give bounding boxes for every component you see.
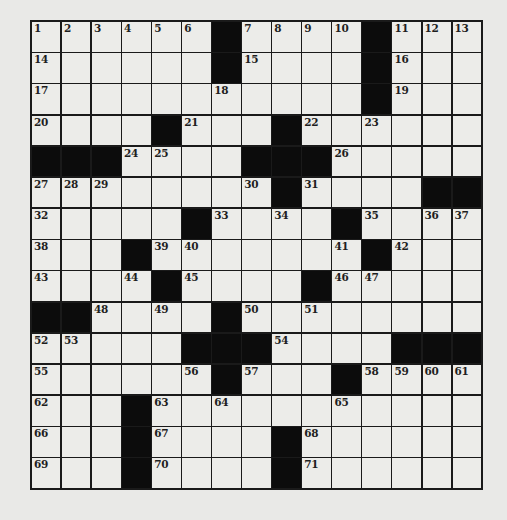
grid-cell[interactable]: 31 [302,178,330,208]
grid-cell[interactable] [212,271,240,301]
grid-cell[interactable]: 52 [32,334,60,364]
grid-cell[interactable]: 28 [62,178,90,208]
grid-cell[interactable]: 1 [32,22,60,52]
grid-cell[interactable]: 2 [62,22,90,52]
grid-cell[interactable] [392,116,420,146]
grid-cell[interactable] [212,147,240,177]
grid-cell[interactable] [332,458,360,488]
grid-cell[interactable]: 21 [182,116,210,146]
grid-cell[interactable] [122,303,150,333]
grid-cell[interactable] [212,240,240,270]
grid-cell[interactable] [423,116,451,146]
grid-cell[interactable] [423,458,451,488]
grid-cell[interactable]: 26 [332,147,360,177]
grid-cell[interactable]: 64 [212,396,240,426]
grid-cell[interactable]: 36 [423,209,451,239]
grid-cell[interactable] [152,84,180,114]
grid-cell[interactable] [92,334,120,364]
grid-cell[interactable] [272,303,300,333]
grid-cell[interactable] [182,53,210,83]
grid-cell[interactable] [122,334,150,364]
grid-cell[interactable] [272,84,300,114]
grid-cell[interactable] [453,116,481,146]
grid-cell[interactable]: 62 [32,396,60,426]
grid-cell[interactable] [362,458,390,488]
grid-cell[interactable] [182,147,210,177]
grid-cell[interactable]: 46 [332,271,360,301]
grid-cell[interactable]: 50 [242,303,270,333]
grid-cell[interactable] [62,396,90,426]
grid-cell[interactable] [332,427,360,457]
grid-cell[interactable]: 17 [32,84,60,114]
grid-cell[interactable] [302,334,330,364]
grid-cell[interactable] [423,396,451,426]
grid-cell[interactable]: 56 [182,365,210,395]
grid-cell[interactable] [92,365,120,395]
grid-cell[interactable]: 25 [152,147,180,177]
grid-cell[interactable] [182,303,210,333]
grid-cell[interactable] [92,209,120,239]
grid-cell[interactable]: 19 [392,84,420,114]
grid-cell[interactable] [453,458,481,488]
grid-cell[interactable] [212,178,240,208]
grid-cell[interactable] [423,303,451,333]
grid-cell[interactable]: 69 [32,458,60,488]
grid-cell[interactable] [122,84,150,114]
grid-cell[interactable] [453,427,481,457]
grid-cell[interactable] [453,396,481,426]
grid-cell[interactable]: 67 [152,427,180,457]
grid-cell[interactable] [332,53,360,83]
grid-cell[interactable]: 10 [332,22,360,52]
grid-cell[interactable] [212,427,240,457]
grid-cell[interactable]: 13 [453,22,481,52]
grid-cell[interactable]: 40 [182,240,210,270]
grid-cell[interactable] [62,84,90,114]
grid-cell[interactable] [242,84,270,114]
grid-cell[interactable]: 29 [92,178,120,208]
grid-cell[interactable] [182,458,210,488]
grid-cell[interactable] [272,365,300,395]
grid-cell[interactable]: 20 [32,116,60,146]
grid-cell[interactable] [423,147,451,177]
grid-cell[interactable] [362,396,390,426]
grid-cell[interactable]: 34 [272,209,300,239]
grid-cell[interactable] [302,84,330,114]
grid-cell[interactable] [122,209,150,239]
grid-cell[interactable]: 22 [302,116,330,146]
grid-cell[interactable] [362,427,390,457]
grid-cell[interactable]: 44 [122,271,150,301]
grid-cell[interactable]: 48 [92,303,120,333]
grid-cell[interactable]: 55 [32,365,60,395]
grid-cell[interactable]: 39 [152,240,180,270]
grid-cell[interactable]: 23 [362,116,390,146]
grid-cell[interactable]: 5 [152,22,180,52]
grid-cell[interactable] [212,458,240,488]
grid-cell[interactable] [392,209,420,239]
grid-cell[interactable] [272,271,300,301]
grid-cell[interactable] [362,147,390,177]
grid-cell[interactable] [92,396,120,426]
grid-cell[interactable]: 6 [182,22,210,52]
grid-cell[interactable] [453,303,481,333]
grid-cell[interactable]: 27 [32,178,60,208]
grid-cell[interactable] [182,396,210,426]
grid-cell[interactable] [92,271,120,301]
grid-cell[interactable] [242,396,270,426]
grid-cell[interactable] [423,84,451,114]
grid-cell[interactable] [212,116,240,146]
grid-cell[interactable] [62,365,90,395]
grid-cell[interactable]: 16 [392,53,420,83]
grid-cell[interactable]: 32 [32,209,60,239]
grid-cell[interactable] [122,116,150,146]
grid-cell[interactable] [62,427,90,457]
grid-cell[interactable] [392,427,420,457]
grid-cell[interactable]: 66 [32,427,60,457]
grid-cell[interactable] [392,303,420,333]
grid-cell[interactable] [272,396,300,426]
grid-cell[interactable] [122,53,150,83]
grid-cell[interactable] [242,271,270,301]
grid-cell[interactable]: 37 [453,209,481,239]
grid-cell[interactable] [152,365,180,395]
grid-cell[interactable]: 8 [272,22,300,52]
grid-cell[interactable]: 24 [122,147,150,177]
